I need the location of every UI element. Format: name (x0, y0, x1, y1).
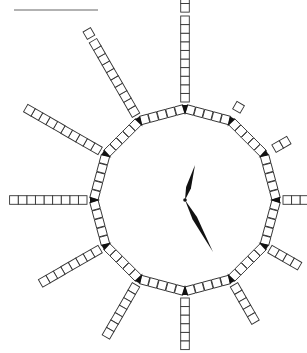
hour-square (181, 324, 190, 333)
spoke-hour-8 (38, 245, 102, 287)
hour-square (83, 28, 95, 40)
hour-square (233, 101, 245, 113)
spoke-hour-10 (24, 104, 103, 154)
hour-square (181, 76, 190, 85)
spoke-hour-4 (268, 245, 302, 270)
hour-square (181, 93, 190, 102)
hour-square (181, 341, 190, 350)
hour-square (283, 196, 292, 205)
hour-spokes (10, 0, 307, 350)
hour-square (53, 196, 62, 205)
hour-square (181, 307, 190, 316)
hour-square (181, 16, 190, 25)
hour-hand (185, 165, 195, 200)
hour-square (44, 196, 53, 205)
clock-hands (183, 165, 213, 252)
hour-square (181, 33, 190, 42)
spoke-hour-5 (230, 283, 259, 325)
hour-square (61, 196, 70, 205)
spoke-hour-1 (233, 101, 245, 113)
spoke-hour-11 (83, 28, 140, 118)
hour-square (181, 315, 190, 324)
hour-square (70, 196, 79, 205)
hour-square (78, 196, 87, 205)
hour-square (292, 196, 301, 205)
hour-square (27, 196, 36, 205)
hour-square (181, 332, 190, 341)
hour-square (300, 196, 307, 205)
hour-square (181, 42, 190, 51)
hour-square (181, 59, 190, 68)
hour-square (10, 196, 19, 205)
counting-clock-diagram (0, 0, 307, 353)
spoke-hour-3 (283, 196, 307, 205)
spoke-hour-2 (272, 136, 291, 152)
hour-square (181, 298, 190, 307)
spoke-hour-7 (102, 283, 140, 339)
spoke-hour-6 (181, 298, 190, 350)
minute-hand (185, 200, 213, 252)
hour-square (181, 0, 190, 4)
spoke-hour-12 (181, 0, 190, 102)
hour-square (181, 4, 190, 13)
hour-square (181, 25, 190, 34)
spoke-hour-9 (10, 196, 87, 205)
hour-square (35, 196, 44, 205)
hour-square (18, 196, 27, 205)
hour-square (181, 85, 190, 94)
hour-square (181, 68, 190, 77)
clock-hub (183, 198, 187, 202)
hour-square (181, 50, 190, 59)
